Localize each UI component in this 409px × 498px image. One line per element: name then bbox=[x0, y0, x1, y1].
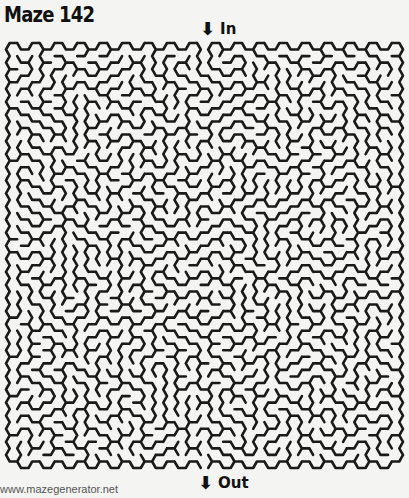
down-arrow-icon: ⬇ bbox=[198, 474, 213, 492]
maze-grid bbox=[0, 0, 409, 480]
website-credit: www.mazegenerator.net bbox=[0, 483, 118, 495]
exit-marker: ⬇ Out bbox=[198, 474, 249, 492]
exit-label: Out bbox=[218, 474, 249, 492]
maze-walls bbox=[6, 43, 403, 468]
